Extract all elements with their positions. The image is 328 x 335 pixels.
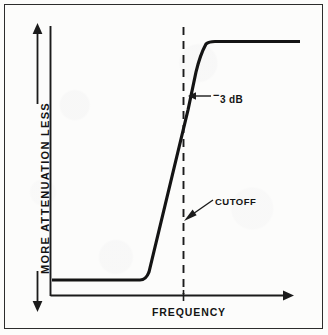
minus3db-annotation-label: −3 dB: [213, 89, 243, 105]
arrow-down-icon: [33, 301, 43, 312]
filter-response-curve: [52, 42, 300, 281]
minus3db-value: 3 dB: [220, 94, 243, 105]
cutoff-annotation-label: CUTOFF: [215, 196, 256, 207]
minus-sign: −: [213, 89, 219, 101]
figure-root: MORE ATTENUATION LESS FREQUENCY CUTOFF −…: [0, 0, 328, 335]
arrow-down-left-icon: [184, 210, 197, 222]
x-axis-label: FREQUENCY: [152, 306, 226, 318]
arrow-right-icon: [283, 291, 294, 301]
y-axis-label: MORE ATTENUATION LESS: [39, 102, 51, 274]
arrow-up-icon: [33, 23, 43, 34]
